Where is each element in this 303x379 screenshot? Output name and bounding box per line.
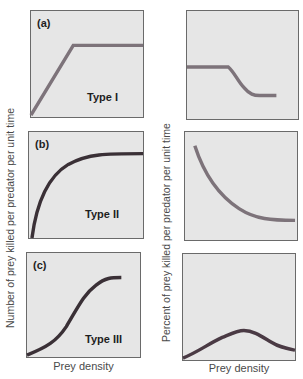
panel-b-number-killed: (b) Type II: [28, 131, 144, 239]
type-ii-percent-curve: [185, 132, 297, 240]
type-ii-label: Type II: [85, 208, 119, 220]
panel-b-percent-killed: [184, 131, 298, 241]
panel-c-percent-killed: [182, 253, 296, 361]
type-i-label: Type I: [87, 91, 118, 103]
panel-a-percent-killed: [186, 10, 299, 120]
right-x-axis-label: Prey density: [182, 362, 296, 374]
type-i-percent-curve: [187, 11, 298, 119]
panel-letter-b: (b): [35, 138, 49, 150]
type-iii-label: Type III: [85, 333, 122, 345]
panel-letter-a: (a): [37, 17, 50, 29]
left-x-axis-label: Prey density: [26, 360, 141, 372]
right-y-axis-label: Percent of prey killed per predator per …: [160, 123, 172, 342]
panel-letter-c: (c): [33, 259, 46, 271]
panel-c-number-killed: (c) Type III: [26, 252, 141, 358]
left-y-axis-label: Number of prey killed per predator per u…: [4, 108, 16, 328]
panel-a-number-killed: (a) Type I: [30, 10, 144, 118]
type-iii-percent-curve: [183, 254, 295, 360]
